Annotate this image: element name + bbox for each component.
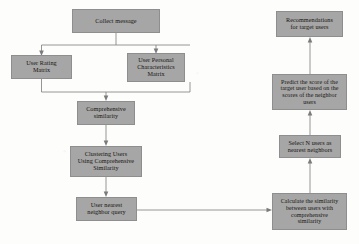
node-predict-score-label: Predict the score of thetarget user base… bbox=[275, 79, 344, 106]
node-user-personal-characteristics-matrix-label: User PersonalCharacteristicsMatrix bbox=[130, 57, 182, 78]
node-select-n-users[interactable]: Select N users asnearest neighbors bbox=[279, 135, 341, 158]
node-recommendations-for-target-users[interactable]: Recommendationsfor target users bbox=[276, 11, 343, 37]
node-calculate-similarity[interactable]: Calculate the similaritybetween users wi… bbox=[272, 193, 347, 230]
node-user-personal-characteristics-matrix[interactable]: User PersonalCharacteristicsMatrix bbox=[127, 53, 185, 82]
node-predict-score[interactable]: Predict the score of thetarget user base… bbox=[272, 74, 347, 110]
edge-clustering-to-query bbox=[104, 177, 109, 197]
node-comprehensive-similarity-label: Comprehensivesimilarity bbox=[80, 106, 132, 120]
node-user-rating-matrix-label: User RatingMatrix bbox=[14, 60, 69, 74]
node-collect-message[interactable]: Collect message bbox=[72, 9, 160, 33]
edge-comprehensive-to-clustering bbox=[104, 125, 109, 146]
flowchart-canvas: Collect message User RatingMatrix User P… bbox=[0, 0, 359, 244]
node-user-nearest-neighbor-query-label: User nearestneighbor query bbox=[79, 202, 134, 216]
node-select-n-users-label: Select N users asnearest neighbors bbox=[282, 140, 338, 154]
node-clustering-users-label: Clustering UsersUsing ComprehensiveSimil… bbox=[73, 151, 139, 172]
edge-calculate-to-select bbox=[308, 158, 313, 193]
edge-select-to-predict bbox=[308, 110, 313, 135]
edge-query-to-calculate bbox=[137, 208, 272, 213]
node-user-nearest-neighbor-query[interactable]: User nearestneighbor query bbox=[76, 197, 137, 221]
node-user-rating-matrix[interactable]: User RatingMatrix bbox=[11, 55, 72, 79]
node-calculate-similarity-label: Calculate the similaritybetween users wi… bbox=[275, 198, 344, 225]
node-clustering-users[interactable]: Clustering UsersUsing ComprehensiveSimil… bbox=[70, 146, 142, 177]
edge-matrices-to-comprehensive bbox=[42, 79, 191, 101]
node-recommendations-for-target-users-label: Recommendationsfor target users bbox=[279, 17, 340, 31]
node-collect-message-label: Collect message bbox=[75, 18, 157, 25]
edge-predict-to-recommendations bbox=[308, 37, 313, 74]
node-comprehensive-similarity[interactable]: Comprehensivesimilarity bbox=[77, 101, 135, 125]
